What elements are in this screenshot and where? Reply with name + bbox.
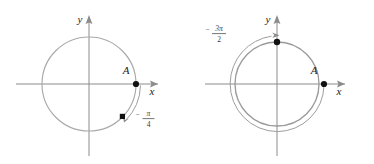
terminal-point-left	[120, 114, 125, 119]
x-axis-label-right: x	[336, 85, 342, 97]
y-axis-label-left: y	[77, 13, 83, 25]
panel-negative-three-pi-over-two: A x y − 3π 2	[187, 0, 374, 164]
point-A-marker-left	[133, 81, 139, 87]
panel-negative-pi-over-four: A x y − π 4	[0, 0, 187, 164]
angle-sign-right: −	[205, 25, 209, 34]
angle-denominator-left: 4	[147, 120, 151, 129]
angle-label-right: − 3π 2	[205, 24, 226, 44]
angle-numerator-left: π	[147, 109, 151, 118]
y-axis-left	[86, 15, 93, 156]
figure-root: A x y − π 4	[0, 0, 374, 164]
x-axis-label-left: x	[149, 85, 155, 97]
angle-denominator-right: 2	[217, 35, 221, 44]
point-A-marker-right	[321, 81, 327, 87]
angle-sign-left: −	[135, 110, 139, 119]
angle-numerator-right: 3π	[214, 24, 223, 33]
point-A-label-right: A	[310, 64, 318, 76]
terminal-point-right	[274, 39, 280, 45]
angle-label-left: − π 4	[135, 109, 154, 129]
point-A-label-left: A	[122, 64, 130, 76]
y-axis-label-right: y	[265, 13, 271, 25]
